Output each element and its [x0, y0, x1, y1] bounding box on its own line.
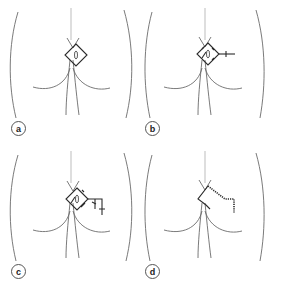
- rhomboid-outline: [197, 43, 219, 65]
- sinus-marker: [76, 195, 79, 203]
- panel-b: b: [142, 0, 284, 143]
- panel-c: c: [0, 143, 142, 286]
- panel-a: a: [0, 0, 142, 143]
- sinus-marker: [75, 51, 78, 59]
- rhomboid-outline: [65, 44, 87, 66]
- figure-grid: a b: [0, 0, 284, 286]
- panel-label-c: c: [11, 264, 26, 279]
- panel-label-d: d: [145, 264, 160, 279]
- buttocks-diagram-b: [142, 0, 284, 143]
- panel-d: d: [142, 143, 284, 286]
- buttocks-diagram-d: [142, 143, 284, 286]
- sinus-marker: [207, 50, 210, 58]
- panel-label-a: a: [11, 121, 26, 136]
- sutured-flap-line: [208, 186, 234, 213]
- transposed-flap-edge: [198, 186, 210, 209]
- panel-label-b: b: [145, 121, 160, 136]
